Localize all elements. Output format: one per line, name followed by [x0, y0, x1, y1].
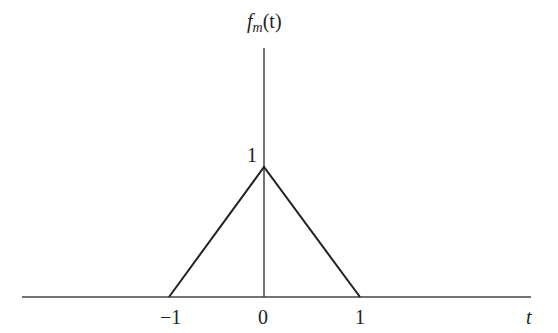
x-axis-label: t	[526, 306, 532, 328]
peak-value-label: 1	[247, 144, 257, 166]
y-axis-label: fm(t)	[247, 10, 282, 35]
x-tick-label-0: 0	[258, 306, 268, 328]
triangle-pulse-plot: fm(t) 1 −1 0 1 t	[0, 0, 558, 333]
x-tick-label-neg1: −1	[160, 306, 181, 328]
x-tick-label-1: 1	[355, 306, 365, 328]
